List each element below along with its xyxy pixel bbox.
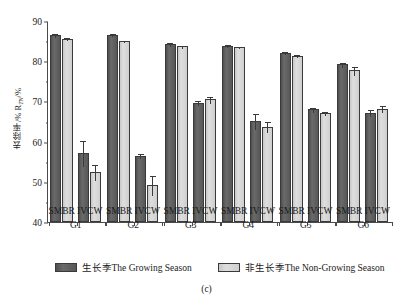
error-bar-cap-top — [195, 101, 201, 102]
bar-cluster — [134, 22, 162, 222]
y-axis-tick-mark — [44, 22, 48, 23]
bar-cluster — [307, 22, 335, 222]
error-bar-cap-top — [64, 38, 70, 39]
error-bar-cap-top — [380, 106, 386, 107]
bar-non-growing-season — [349, 70, 360, 222]
legend-label: 生长季The Growing Season — [82, 260, 192, 274]
x-axis-group-label-g6: G6 — [335, 220, 393, 230]
error-bar-cap-top — [322, 112, 328, 113]
bar-non-growing-season — [62, 39, 73, 222]
error-bar — [95, 165, 96, 181]
y-axis-title: 去除率/% RTN/% — [14, 88, 28, 149]
x-axis-group-label-g3: G3 — [162, 220, 220, 230]
legend-swatch-growing — [55, 263, 77, 272]
y-axis-tick-mark — [44, 102, 48, 103]
y-axis-minor-tick-mark — [46, 162, 49, 163]
error-bar-cap-top — [225, 45, 231, 46]
bar-cluster — [49, 22, 77, 222]
error-bar-cap-top — [52, 34, 58, 35]
error-bar — [210, 97, 211, 104]
plot-area: 405060708090 — [47, 22, 392, 223]
y-axis-minor-tick-mark — [46, 82, 49, 83]
bar-cluster — [192, 22, 220, 222]
figure-panel-c: 去除率/% RTN/% 405060708090 生长季The Growing … — [0, 0, 413, 305]
error-bar-cap-top — [265, 122, 271, 123]
y-axis-title-subscript: TN — [18, 97, 24, 104]
bar-cluster — [164, 22, 192, 222]
legend-item[interactable]: 生长季The Growing Season — [55, 260, 192, 274]
bar-cluster — [77, 22, 105, 222]
figure-caption: (c) — [0, 284, 413, 294]
y-axis-minor-tick-mark — [46, 122, 49, 123]
y-axis-tick-mark — [44, 182, 48, 183]
bar-growing-season — [280, 53, 291, 222]
bar-growing-season — [193, 103, 204, 222]
error-bar-cap-top — [294, 55, 300, 56]
error-bar-cap-top — [310, 108, 316, 109]
bar-cluster — [106, 22, 134, 222]
y-axis-tick-mark — [44, 142, 48, 143]
x-axis-tick-mark — [392, 222, 393, 226]
bar-cluster — [336, 22, 364, 222]
bar-growing-season — [165, 44, 176, 222]
error-bar — [83, 141, 84, 167]
y-axis-title-main: 去除率/% R — [13, 105, 23, 149]
error-bar-cap-top — [340, 63, 346, 64]
error-bar-cap-top — [237, 47, 243, 48]
error-bar-cap-top — [122, 41, 128, 42]
bar-non-growing-season — [292, 56, 303, 222]
bar-non-growing-season — [377, 109, 388, 222]
bar-cluster — [279, 22, 307, 222]
legend-label: 非生长季The Non-Growing Season — [245, 260, 385, 274]
y-axis-minor-tick-mark — [46, 42, 49, 43]
error-bar-cap-top — [282, 52, 288, 53]
bar-growing-season — [50, 35, 61, 222]
error-bar-cap-top — [253, 114, 259, 115]
y-axis-minor-tick-mark — [46, 202, 49, 203]
y-axis-title-tail: /% — [13, 88, 23, 97]
bar-growing-season — [107, 35, 118, 222]
x-axis-group-label-g5: G5 — [277, 220, 335, 230]
error-bar-cap-top — [150, 176, 156, 177]
bar-non-growing-season — [119, 41, 130, 222]
x-axis-group-label-g4: G4 — [220, 220, 278, 230]
chart-legend: 生长季The Growing Season非生长季The Non-Growing… — [47, 259, 392, 275]
error-bar-cap-top — [207, 97, 213, 98]
error-bar-cap-top — [167, 43, 173, 44]
error-bar — [354, 67, 355, 76]
error-bar — [267, 122, 268, 133]
error-bar-cap-top — [179, 46, 185, 47]
bar-growing-season — [337, 64, 348, 222]
y-axis-tick-mark — [44, 62, 48, 63]
x-axis-group-label-g2: G2 — [105, 220, 163, 230]
legend-item[interactable]: 非生长季The Non-Growing Season — [218, 260, 385, 274]
bar-cluster — [249, 22, 277, 222]
error-bar-cap-top — [368, 110, 374, 111]
error-bar-cap-top — [352, 67, 358, 68]
error-bar-cap-top — [110, 34, 116, 35]
x-axis-group-label-g1: G1 — [47, 220, 105, 230]
legend-swatch-nongrowing — [218, 263, 240, 272]
bar-cluster — [364, 22, 392, 222]
error-bar — [255, 114, 256, 130]
error-bar — [152, 176, 153, 195]
bar-non-growing-season — [234, 47, 245, 222]
error-bar-cap-top — [138, 154, 144, 155]
bar-cluster — [221, 22, 249, 222]
error-bar-cap-top — [92, 165, 98, 166]
bar-non-growing-season — [177, 46, 188, 222]
bar-growing-season — [222, 46, 233, 222]
x-axis-sublabel-ivcw: IVCW — [359, 206, 395, 216]
error-bar-cap-top — [80, 141, 86, 142]
bar-non-growing-season — [205, 99, 216, 222]
